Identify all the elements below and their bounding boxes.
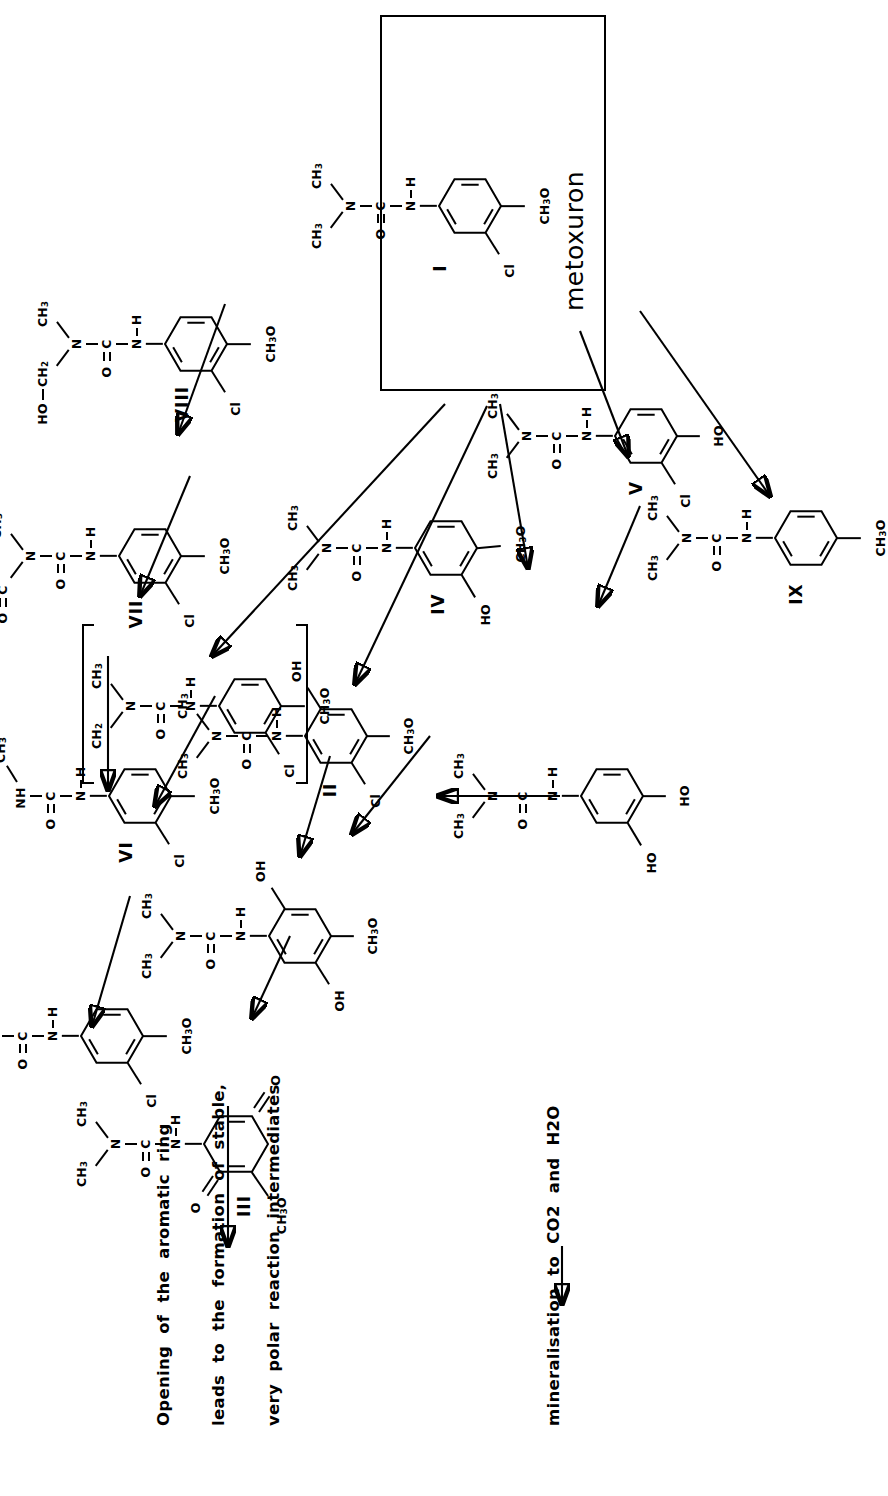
R-atom-H1: H [185,677,198,688]
R-atom-CH3O: CH3O [319,688,332,725]
R-bond-CO-a [157,714,159,723]
R-atom-C: C [155,701,168,710]
R-bond-CO-b [163,714,165,723]
R-bond-N-H [190,690,192,698]
R-bond-N1-C [170,705,182,707]
R-atom-Cl: Cl [283,764,296,778]
R-atom-N2: N [125,701,138,712]
benzene-ring-R [212,668,288,744]
R-bond-N-left [110,711,123,728]
R-atom-O: O [155,729,168,740]
R-bond-C-N2 [140,705,152,707]
R-atom-N1: N [185,701,198,712]
bracket-close [296,624,308,784]
R-bond-ring-N [200,705,217,707]
bracket-open [82,624,94,784]
R-bond-N-right [110,683,123,700]
